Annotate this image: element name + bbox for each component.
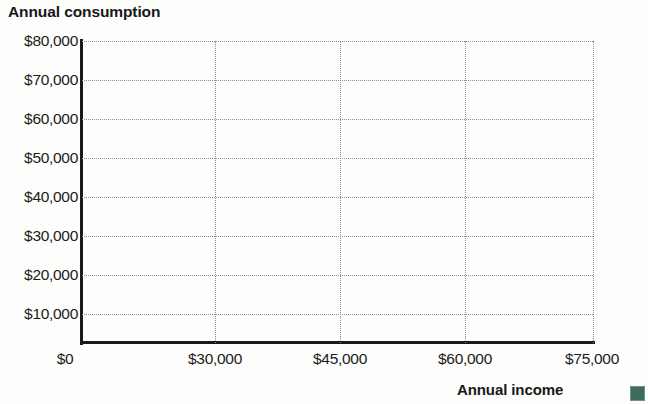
- horizontal-gridline: [82, 275, 593, 276]
- horizontal-gridline: [82, 314, 593, 315]
- y-axis-tick-label: $70,000: [0, 71, 78, 89]
- horizontal-gridline: [82, 158, 593, 159]
- horizontal-gridline: [82, 236, 593, 237]
- y-axis-tick-label: $60,000: [0, 110, 78, 128]
- x-axis-title: Annual income: [457, 381, 563, 398]
- chart-figure: Annual consumption $80,000$70,000$60,000…: [0, 0, 648, 404]
- vertical-gridline: [593, 41, 594, 343]
- horizontal-gridline: [82, 197, 593, 198]
- x-axis-tick-label: $30,000: [188, 350, 242, 368]
- x-axis-tick-label: $75,000: [565, 350, 619, 368]
- horizontal-gridline: [82, 80, 593, 81]
- y-axis-tick-label: $80,000: [0, 32, 78, 50]
- corner-marker-icon: [630, 386, 645, 401]
- y-axis-tick-label: $50,000: [0, 149, 78, 167]
- y-axis-tick-labels: $80,000$70,000$60,000$50,000$40,000$30,0…: [0, 0, 78, 404]
- y-axis-tick-label: $20,000: [0, 266, 78, 284]
- horizontal-gridline: [82, 41, 593, 42]
- vertical-gridline: [465, 41, 466, 343]
- vertical-gridline: [340, 41, 341, 343]
- y-axis-tick-label: $30,000: [0, 227, 78, 245]
- x-axis-tick-label: $45,000: [313, 350, 367, 368]
- plot-area: [82, 41, 593, 343]
- vertical-gridline: [215, 41, 216, 343]
- y-axis-tick-label: $40,000: [0, 188, 78, 206]
- y-axis-tick-label: $10,000: [0, 305, 78, 323]
- horizontal-gridline: [82, 119, 593, 120]
- x-axis-tick-label: $0: [57, 350, 74, 368]
- x-axis-tick-label: $60,000: [438, 350, 492, 368]
